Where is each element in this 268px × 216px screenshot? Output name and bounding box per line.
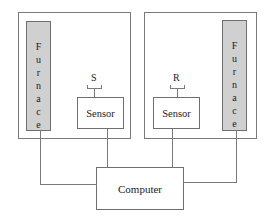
wire-right-sensor bbox=[172, 129, 173, 168]
wire-right-furnace bbox=[183, 182, 237, 183]
right-sensor: Sensor bbox=[153, 97, 200, 129]
furnace-letter: n bbox=[232, 78, 237, 91]
furnace-letter: a bbox=[36, 92, 40, 105]
furnace-letter: e bbox=[232, 117, 236, 130]
holder-bracket-r bbox=[170, 85, 171, 89]
furnace-letter: c bbox=[36, 105, 40, 118]
wire-right-furnace bbox=[236, 131, 237, 183]
sample-label-s: S bbox=[91, 72, 97, 83]
right-furnace: F u r n a c e bbox=[222, 20, 247, 131]
wire-left-furnace bbox=[40, 131, 41, 185]
wire-left-sensor bbox=[107, 129, 108, 168]
left-furnace: F u r n a c e bbox=[26, 21, 51, 131]
furnace-letter: n bbox=[36, 79, 41, 92]
reference-label-r: R bbox=[173, 72, 180, 83]
wire-left-furnace bbox=[40, 184, 97, 185]
furnace-letter: r bbox=[37, 66, 40, 79]
holder-bracket-s bbox=[87, 85, 88, 89]
furnace-letter: F bbox=[232, 39, 238, 52]
holder-bracket-r bbox=[184, 85, 185, 89]
furnace-letter: u bbox=[36, 53, 41, 66]
dsc-setup-diagram: F u r n a c e S Sensor F u r n a c e R S… bbox=[0, 0, 268, 216]
furnace-letter: e bbox=[36, 118, 40, 131]
furnace-letter: c bbox=[232, 104, 236, 117]
holder-bracket-s bbox=[101, 85, 102, 89]
furnace-letter: a bbox=[232, 91, 236, 104]
furnace-letter: r bbox=[233, 65, 236, 78]
furnace-letter: u bbox=[232, 52, 237, 65]
computer-box: Computer bbox=[96, 167, 184, 210]
left-sensor: Sensor bbox=[77, 97, 124, 129]
furnace-letter: F bbox=[36, 40, 42, 53]
